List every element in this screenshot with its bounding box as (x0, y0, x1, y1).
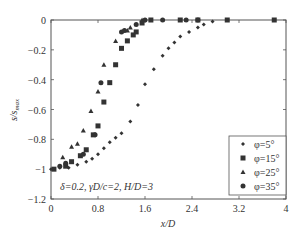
legend-circle-icon (241, 184, 246, 189)
parameter-annotation: δ=0.2, γD/c=2, H/D=3 (60, 181, 153, 192)
data-point-square-marker (96, 123, 101, 128)
x-tick-label: 1.6 (139, 203, 152, 214)
y-axis-title-sub: max (13, 98, 21, 111)
data-point-circle-marker (143, 18, 148, 23)
data-point-square-marker (84, 147, 89, 152)
data-point-circle-marker (195, 18, 200, 23)
data-point-diamond-marker (136, 103, 140, 107)
y-tick-label: −0.2 (28, 45, 46, 56)
data-point-circle-marker (184, 18, 189, 23)
data-point-square-marker (134, 29, 139, 34)
legend-label: φ=15° (254, 153, 279, 164)
data-point-triangle-marker (113, 38, 118, 43)
data-point-diamond-marker (202, 22, 206, 26)
data-point-diamond-marker (128, 119, 132, 123)
legend-label: φ=25° (254, 167, 279, 178)
data-point-diamond-marker (84, 160, 88, 164)
data-point-diamond-marker (114, 136, 118, 140)
data-point-diamond-marker (102, 146, 106, 150)
data-point-diamond-marker (161, 54, 165, 58)
data-point-diamond-marker (187, 30, 191, 34)
y-axis-title-main: s/s (8, 110, 19, 121)
data-point-diamond-marker (75, 163, 79, 167)
data-point-square-marker (125, 38, 130, 43)
legend-label: φ=5° (254, 139, 274, 150)
data-point-square-marker (178, 18, 183, 23)
data-point-triangle-marker (96, 89, 101, 94)
data-point-diamond-marker (196, 25, 200, 29)
data-point-square-marker (51, 167, 56, 172)
data-point-triangle-marker (69, 144, 74, 149)
y-tick-label: −1 (35, 164, 46, 175)
data-point-triangle-marker (101, 62, 106, 67)
data-point-circle-marker (81, 152, 86, 157)
y-axis-title: s/smax (8, 98, 21, 121)
data-point-triangle-marker (88, 108, 93, 113)
y-tick-label: 0 (41, 15, 46, 26)
data-point-diamond-marker (90, 157, 94, 161)
legend: φ=5°φ=15°φ=25°φ=35° (229, 136, 286, 195)
data-point-diamond-marker (108, 140, 112, 144)
y-tick-label: −0.6 (28, 105, 46, 116)
y-tick-label: −0.8 (28, 134, 46, 145)
data-point-square-marker (148, 18, 153, 23)
data-point-diamond-marker (96, 152, 100, 156)
data-point-circle-marker (134, 22, 139, 27)
x-tick-label: 0 (49, 203, 54, 214)
y-tick-label: −0.4 (28, 75, 46, 86)
chart-canvas: 00.81.62.43.24 0−0.2−0.4−0.6−0.8−1−1.2 x… (0, 0, 304, 235)
legend-square-icon (241, 156, 246, 161)
data-point-square-marker (119, 46, 124, 51)
data-point-square-marker (107, 80, 112, 85)
data-point-triangle-marker (75, 141, 80, 146)
data-point-diamond-marker (143, 82, 147, 86)
data-point-diamond-marker (172, 40, 176, 44)
x-tick-label: 4 (284, 203, 289, 214)
data-point-square-marker (69, 159, 74, 164)
x-axis-title: x/D (160, 218, 176, 229)
data-point-circle-marker (63, 161, 68, 166)
data-point-triangle-marker (60, 155, 65, 160)
y-tick-labels: 0−0.2−0.4−0.6−0.8−1−1.2 (28, 15, 46, 205)
data-point-square-marker (101, 100, 106, 105)
data-point-circle-marker (98, 80, 103, 85)
data-point-circle-marker (160, 18, 165, 23)
y-tick-label: −1.2 (28, 194, 46, 205)
data-point-diamond-marker (167, 46, 171, 50)
data-point-square-marker (113, 62, 118, 67)
data-point-square-marker (225, 18, 230, 23)
data-point-diamond-marker (178, 34, 182, 38)
data-point-triangle-marker (81, 128, 86, 133)
data-point-diamond-marker (120, 131, 124, 135)
data-point-square-marker (272, 18, 277, 23)
data-point-circle-marker (93, 132, 98, 137)
x-tick-label: 3.2 (233, 203, 246, 214)
data-point-circle-marker (122, 28, 127, 33)
data-point-triangle-marker (128, 25, 133, 30)
x-tick-label: 2.4 (186, 203, 199, 214)
data-point-diamond-marker (152, 67, 156, 71)
legend-label: φ=35° (254, 181, 279, 192)
data-point-circle-marker (57, 164, 62, 169)
x-tick-label: 0.8 (92, 203, 105, 214)
x-tick-labels: 00.81.62.43.24 (49, 203, 289, 214)
